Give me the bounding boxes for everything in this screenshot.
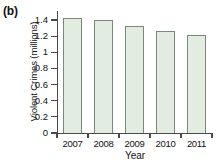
bar: [187, 35, 206, 133]
bar: [63, 18, 82, 133]
y-axis-tick-label: 1: [24, 47, 48, 57]
x-axis-tick-label: 2010: [150, 139, 181, 149]
x-axis-tick: [180, 133, 181, 138]
panel-label: (b): [3, 4, 18, 18]
bar: [94, 20, 113, 133]
y-axis-tick-label: 0.8: [24, 63, 48, 73]
figure-panel-b: (b) Violent Crimes (millions) 00.20.40.6…: [0, 0, 217, 166]
x-axis-tick-label: 2007: [57, 139, 88, 149]
y-axis-tick-label: 0.6: [24, 80, 48, 90]
y-axis-tick-label: 0: [24, 128, 48, 138]
x-axis-tick: [118, 133, 119, 138]
plot-area: [57, 12, 212, 133]
bar: [156, 31, 175, 133]
x-axis-title: Year: [56, 150, 214, 161]
x-axis-tick-label: 2008: [88, 139, 119, 149]
bar: [125, 26, 144, 133]
y-axis-tick-label: 1.2: [24, 31, 48, 41]
y-axis-tick-label: 0.4: [24, 96, 48, 106]
x-axis-tick-label: 2011: [181, 139, 212, 149]
y-axis-tick-label: 1.4: [24, 15, 48, 25]
x-axis-tick: [56, 133, 57, 138]
x-axis-tick-label: 2009: [119, 139, 150, 149]
x-axis-tick: [149, 133, 150, 138]
y-axis-tick-label: 0.2: [24, 112, 48, 122]
x-axis-tick: [87, 133, 88, 138]
x-axis-tick: [211, 133, 212, 138]
